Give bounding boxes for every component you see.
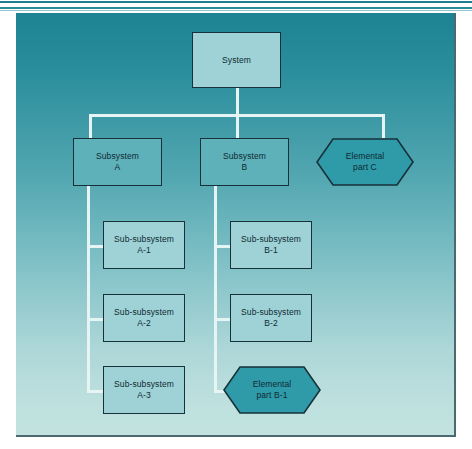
edge-system-drop — [236, 88, 239, 116]
edge-subsystem-b-to-b1 — [214, 245, 231, 248]
node-subsystem-a[interactable]: Subsystem A — [73, 138, 162, 186]
node-sub-subsystem-b1-label: Sub-subsystem B-1 — [241, 234, 301, 256]
node-system[interactable]: System — [192, 32, 281, 88]
node-sub-subsystem-a2[interactable]: Sub-subsystem A-2 — [103, 294, 185, 342]
diagram-page: System Subsystem A Subsystem B Elemental… — [0, 0, 472, 449]
node-subsystem-a-label: Subsystem A — [96, 151, 139, 173]
node-sub-subsystem-b2-label: Sub-subsystem B-2 — [241, 307, 301, 329]
node-system-label: System — [222, 55, 251, 66]
edge-subsystem-a-trunk — [87, 186, 90, 392]
node-subsystem-b[interactable]: Subsystem B — [200, 138, 289, 186]
edge-subsystem-a-to-a2 — [87, 318, 104, 321]
node-elemental-part-b1[interactable]: Elemental part B-1 — [223, 366, 321, 414]
page-rule-third — [0, 10, 472, 11]
edge-subsystem-b-trunk — [214, 186, 217, 392]
node-subsystem-b-label: Subsystem B — [223, 151, 266, 173]
page-rule-second — [0, 7, 472, 9]
node-elemental-part-c-label: Elemental part C — [346, 151, 385, 173]
node-sub-subsystem-a1-label: Sub-subsystem A-1 — [114, 234, 174, 256]
node-sub-subsystem-a2-label: Sub-subsystem A-2 — [114, 307, 174, 329]
node-sub-subsystem-a3[interactable]: Sub-subsystem A-3 — [103, 366, 185, 414]
node-elemental-part-b1-label: Elemental part B-1 — [253, 379, 292, 401]
node-sub-subsystem-a1[interactable]: Sub-subsystem A-1 — [103, 221, 185, 269]
edge-to-subsystem-a — [89, 114, 92, 138]
node-sub-subsystem-b2[interactable]: Sub-subsystem B-2 — [230, 294, 312, 342]
node-sub-subsystem-a3-label: Sub-subsystem A-3 — [114, 379, 174, 401]
edge-to-subsystem-b — [236, 114, 239, 138]
edge-subsystem-b-to-b2 — [214, 318, 231, 321]
node-sub-subsystem-b1[interactable]: Sub-subsystem B-1 — [230, 221, 312, 269]
edge-subsystem-a-to-a1 — [87, 245, 104, 248]
figure-panel: System Subsystem A Subsystem B Elemental… — [16, 13, 456, 437]
edge-to-elemental-c — [382, 114, 385, 138]
page-rule-top — [0, 1, 472, 3]
node-elemental-part-c[interactable]: Elemental part C — [316, 138, 414, 186]
edge-subsystem-a-to-a3 — [87, 390, 104, 393]
